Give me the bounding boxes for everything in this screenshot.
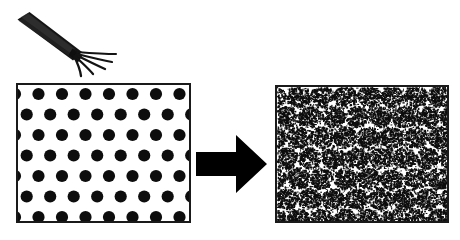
dispersed-particle-panel: [275, 85, 449, 223]
dispersed-particle-canvas: [277, 87, 447, 221]
arrow-right-icon: [196, 134, 268, 194]
rake-tool-icon: [12, 6, 127, 78]
figure-root: [0, 0, 460, 240]
process-arrow: [196, 134, 268, 194]
rake-tool: [12, 6, 127, 78]
ordered-particle-panel: [16, 83, 191, 223]
rake-tines: [74, 52, 116, 76]
ordered-particle-canvas: [18, 85, 189, 221]
